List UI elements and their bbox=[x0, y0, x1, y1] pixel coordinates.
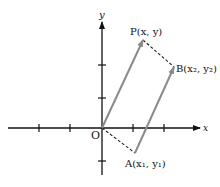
dashed-line-o-a bbox=[102, 128, 135, 153]
vector-ab bbox=[135, 67, 174, 153]
vector-op bbox=[102, 40, 143, 128]
x-axis-label: x bbox=[203, 123, 208, 133]
origin-label: O bbox=[91, 129, 100, 142]
vector-diagram: y x O P(x, y) B(x₂, y₂) A(x₁, y₁) bbox=[0, 0, 220, 187]
point-b-label: B(x₂, y₂) bbox=[176, 63, 217, 74]
y-axis-label: y bbox=[98, 9, 105, 20]
point-p-label: P(x, y) bbox=[130, 26, 162, 37]
dashed-line-p-b bbox=[143, 40, 174, 67]
point-a-label: A(x₁, y₁) bbox=[124, 158, 166, 169]
